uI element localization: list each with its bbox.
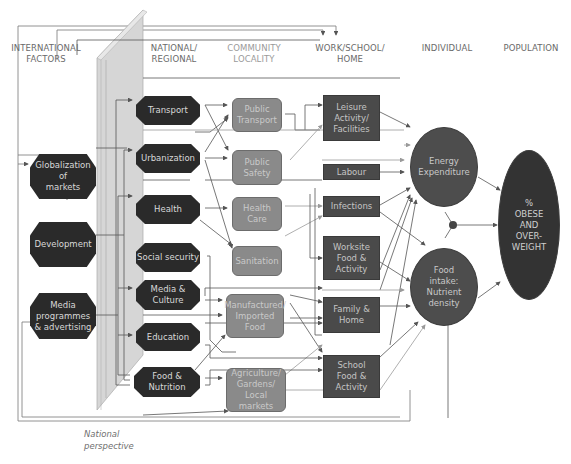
node-education[interactable]: Education [136,323,200,351]
header-population: POPULATION [495,43,567,54]
node-manufactured-imported-food[interactable]: Manufactured/ Imported Food [226,294,284,338]
node-media-programmes-advertising[interactable]: Media programmes & advertising [30,293,96,339]
node-school-food-activity[interactable]: School Food & Activity [323,355,380,398]
node-sanitation[interactable]: Sanitation [232,246,282,276]
junction-dot [449,221,457,229]
node-transport[interactable]: Transport [136,96,200,125]
node-family-home[interactable]: Family & Home [323,297,380,333]
node-media-culture[interactable]: Media & Culture [136,280,200,310]
node-health-care[interactable]: Health Care [232,197,282,231]
node-development[interactable]: Development [30,222,96,267]
node-public-safety[interactable]: Public Safety [232,150,282,185]
node-labour[interactable]: Labour [323,164,380,180]
node-health[interactable]: Health [136,195,200,224]
node-percent-obese-overweight[interactable]: % OBESE AND OVER- WEIGHT [498,150,560,300]
node-food-nutrition[interactable]: Food & Nutrition [134,367,200,397]
node-leisure-activity-facilities[interactable]: Leisure Activity/ Facilities [323,95,380,141]
header-work-school-home: WORK/SCHOOL/ HOME [308,43,392,65]
header-national-regional: NATIONAL/ REGIONAL [145,43,203,65]
header-international-factors: INTERNATIONAL FACTORS [2,43,90,65]
header-individual: INDIVIDUAL [415,43,479,54]
node-public-transport[interactable]: Public Transport [232,98,282,132]
node-energy-expenditure[interactable]: Energy Expenditure [410,127,478,207]
header-community-locality: COMMUNITY LOCALITY [220,43,288,65]
node-globalization-of-markets[interactable]: Globalization of markets [30,154,96,199]
node-urbanization[interactable]: Urbanization [136,144,200,173]
node-worksite-food-activity[interactable]: Worksite Food & Activity [323,236,380,280]
node-social-security[interactable]: Social security [136,243,200,272]
node-agriculture-gardens-local-markets[interactable]: Agriculture/ Gardens/ Local markets [226,368,286,412]
node-infections[interactable]: Infections [323,196,380,217]
node-food-intake-nutrient-density[interactable]: Food intake: Nutrient density [410,248,478,326]
national-perspective-caption: National perspective [84,428,134,452]
